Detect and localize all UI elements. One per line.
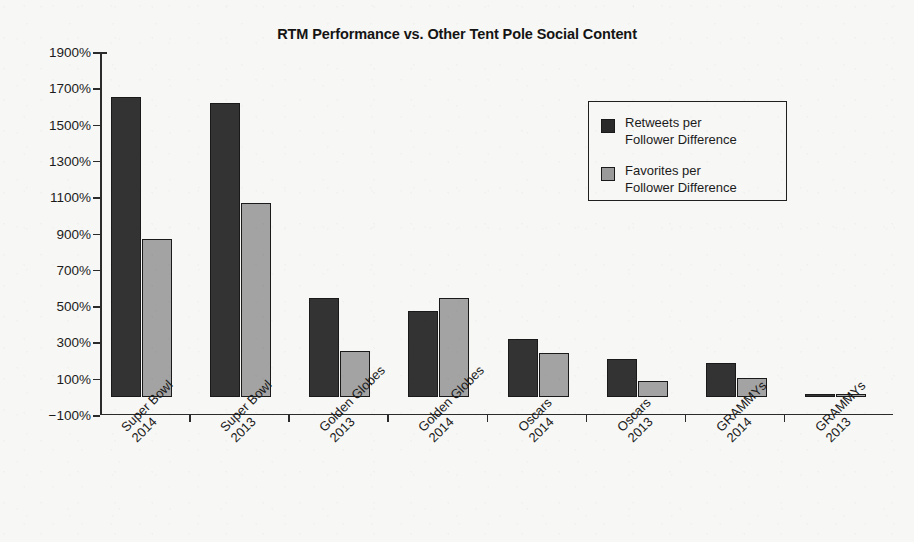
y-axis-tick-label: 700% xyxy=(56,262,91,277)
legend-item: Favorites perFollower Difference xyxy=(601,163,786,196)
page-title: RTM Performance vs. Other Tent Pole Soci… xyxy=(0,26,914,42)
x-axis-tick-mark xyxy=(387,415,389,422)
bar-group xyxy=(111,52,172,415)
legend-label-line1: Retweets per xyxy=(625,115,737,132)
y-axis-tick-label: 1500% xyxy=(49,117,91,132)
y-axis-tick-label: 900% xyxy=(56,226,91,241)
x-axis-tick-mark xyxy=(487,415,489,422)
bar xyxy=(111,97,141,396)
legend-swatch xyxy=(601,167,615,181)
legend-item: Retweets perFollower Difference xyxy=(601,115,786,148)
y-axis-tick-label: 1700% xyxy=(49,81,91,96)
legend-label: Favorites perFollower Difference xyxy=(625,163,737,196)
y-axis-tick-label: 300% xyxy=(56,335,91,350)
y-axis-tick-label: −100% xyxy=(49,408,91,423)
y-axis-tick-label: 1100% xyxy=(50,190,91,205)
y-axis-tick-mark xyxy=(93,234,100,236)
y-axis-tick-mark xyxy=(93,197,100,199)
bar-group xyxy=(408,52,469,415)
y-axis-tick-label: 1900% xyxy=(49,45,91,60)
y-axis-tick-mark xyxy=(93,342,100,344)
y-axis-tick-mark xyxy=(93,161,100,163)
y-axis-tick-mark xyxy=(93,270,100,272)
bar xyxy=(805,394,835,397)
bar xyxy=(539,353,569,397)
chart-legend: Retweets perFollower DifferenceFavorites… xyxy=(588,101,787,201)
bar xyxy=(210,103,240,397)
legend-swatch xyxy=(601,119,615,133)
legend-label: Retweets perFollower Difference xyxy=(625,115,737,148)
x-axis-tick-mark xyxy=(586,415,588,422)
y-axis-tick-mark xyxy=(93,52,100,54)
bar-group xyxy=(309,52,370,415)
y-axis-tick-mark xyxy=(93,306,100,308)
y-axis-line xyxy=(100,52,102,415)
x-axis-tick-mark xyxy=(784,415,786,422)
chart-page: RTM Performance vs. Other Tent Pole Soci… xyxy=(0,0,914,542)
bar xyxy=(241,203,271,397)
y-axis-tick-mark xyxy=(93,415,100,417)
y-axis-tick-mark xyxy=(93,125,100,127)
y-axis-top-cap xyxy=(100,52,107,54)
legend-label-line2: Follower Difference xyxy=(625,180,737,197)
y-axis-tick-mark xyxy=(93,88,100,90)
y-axis-bottom-cap xyxy=(100,414,107,416)
bar xyxy=(142,239,172,397)
bar-group xyxy=(508,52,569,415)
x-axis-tick-mark xyxy=(685,415,687,422)
y-axis-tick-mark xyxy=(93,379,100,381)
bar xyxy=(508,339,538,397)
x-axis-tick-mark xyxy=(288,415,290,422)
y-axis-tick-label: 1300% xyxy=(49,153,91,168)
bar-group xyxy=(805,52,866,415)
legend-label-line1: Favorites per xyxy=(625,163,737,180)
bar xyxy=(408,311,438,397)
x-axis-tick-mark xyxy=(189,415,191,422)
y-axis-tick-label: 100% xyxy=(56,371,91,386)
bar xyxy=(607,359,637,397)
y-axis-tick-label: 500% xyxy=(56,299,91,314)
bar xyxy=(309,298,339,397)
legend-label-line2: Follower Difference xyxy=(625,132,737,149)
bar xyxy=(706,363,736,397)
bar-group xyxy=(210,52,271,415)
